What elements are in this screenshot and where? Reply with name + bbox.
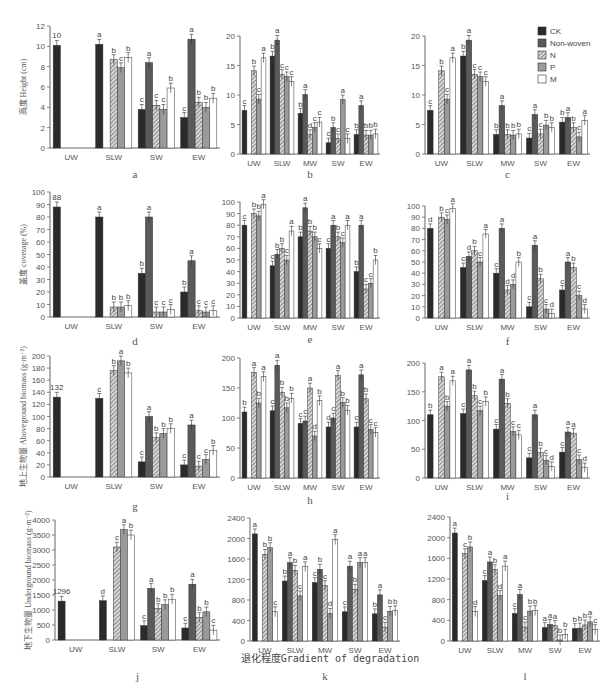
y-tick-label: 20 [226, 291, 235, 300]
chart-panel-d: 0102030405060708090100盖度 coverage (%)UW8… [18, 188, 220, 347]
bar-ck [460, 414, 466, 478]
y-tick-label: 400 [432, 616, 446, 625]
significance-letter: c [273, 598, 277, 607]
significance-letter: c [494, 416, 498, 425]
significance-letter: c [115, 533, 119, 542]
y-tick-label: 3000 [32, 546, 50, 555]
bar-p [120, 530, 127, 640]
significance-letter: a [261, 191, 266, 200]
bar-ck [460, 268, 466, 318]
bar-m [210, 98, 217, 148]
significance-letter: d [549, 453, 553, 462]
significance-letter: a [467, 356, 472, 365]
significance-letter: c [154, 298, 158, 307]
bar-non-woven [317, 569, 322, 641]
y-tick-label: 80 [226, 221, 235, 230]
bar-ck [96, 44, 103, 148]
significance-letter: a [453, 519, 458, 528]
bar-n [336, 237, 341, 318]
significance-letter: a [363, 549, 368, 558]
significance-letter: c [341, 229, 345, 238]
significance-letter: b [364, 385, 369, 394]
legend-swatch [538, 27, 546, 35]
category-label: SW [150, 322, 163, 331]
significance-letter: a [500, 366, 505, 375]
bar-m [345, 410, 350, 478]
bar-n [113, 547, 120, 640]
bar-non-woven [499, 379, 505, 478]
y-tick-label: 50 [226, 256, 235, 265]
bar-p [312, 436, 317, 478]
category-label: SLW [274, 323, 291, 332]
y-tick-label: 50 [36, 251, 45, 260]
bar-non-woven [275, 254, 280, 318]
significance-letter: c [142, 612, 146, 621]
y-tick-label: 10 [36, 301, 45, 310]
significance-letter: a [289, 217, 294, 226]
bar-n [571, 433, 577, 478]
y-tick-label: 6 [41, 83, 46, 92]
category-label: MW [518, 646, 533, 655]
significance-letter: c [560, 439, 564, 448]
significance-letter: a [253, 520, 258, 529]
chart-panel-e: 0102030405060708090100UWcbbaSLWcbbcaMWba… [222, 191, 380, 345]
panel-label: i [506, 490, 509, 502]
category-label: SW [534, 323, 547, 332]
bar-ck [58, 601, 65, 640]
y-tick-label: 20 [411, 292, 420, 301]
significance-letter: c [445, 206, 449, 215]
bar-non-woven [499, 106, 505, 154]
significance-letter: d [582, 454, 586, 463]
significance-letter: b [211, 437, 216, 446]
y-tick-label: 100 [222, 198, 236, 207]
category-label: SLW [105, 322, 122, 331]
category-label: SLW [105, 482, 122, 491]
bar-n [280, 392, 285, 478]
bar-n [110, 371, 117, 477]
significance-letter: a [500, 92, 505, 101]
bar-m [261, 377, 266, 478]
panel-label: j [135, 670, 139, 682]
y-tick-label: 400 [232, 617, 246, 626]
significance-letter: c [97, 385, 101, 394]
category-label: MW [303, 483, 318, 492]
significance-letter: c [374, 419, 378, 428]
category-label: MW [303, 323, 318, 332]
bar-n [322, 586, 327, 641]
bar-m [167, 88, 174, 148]
significance-letter: a [500, 215, 505, 224]
significance-letter: c [140, 448, 144, 457]
y-tick-label: 0 [441, 637, 446, 646]
category-label: SW [332, 159, 345, 168]
y-tick-label: 180 [32, 364, 46, 373]
bar-ck [493, 273, 499, 318]
significance-letter: a [533, 101, 538, 110]
bar-p [444, 99, 450, 154]
significance-letter: a [147, 49, 152, 58]
category-label: UW [435, 159, 449, 168]
legend-label: CK [550, 27, 562, 36]
y-tick-label: 4000 [32, 516, 50, 525]
significance-letter: c [445, 85, 449, 94]
bar-p [498, 596, 503, 641]
significance-letter: c [577, 123, 581, 132]
bar-m [289, 231, 294, 318]
significance-letter: a [588, 608, 593, 617]
significance-letter: a [147, 203, 152, 212]
bar-n [292, 570, 297, 641]
significance-letter: c [182, 451, 186, 460]
bar-m [303, 567, 308, 641]
bar-p [340, 402, 345, 478]
y-tick-label: 60 [36, 238, 45, 247]
significance-letter: c [461, 254, 465, 263]
significance-letter: c [298, 410, 302, 419]
significance-letter: a [308, 374, 313, 383]
bar-p [340, 243, 345, 318]
significance-letter: a [252, 359, 257, 368]
bar-p [312, 237, 317, 318]
significance-letter: b [533, 597, 538, 606]
bar-m [483, 234, 489, 318]
y-tick-label: 5 [416, 121, 421, 130]
significance-letter: a [483, 221, 488, 230]
significance-letter: d [326, 413, 330, 422]
